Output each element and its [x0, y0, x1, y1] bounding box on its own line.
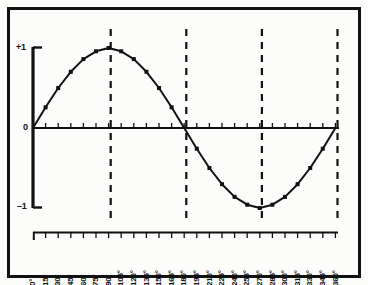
- y-axis-label-positive-one: +1: [16, 42, 26, 52]
- y-axis-label-zero: 0: [23, 122, 28, 132]
- dashed-reference-lines: [111, 29, 338, 223]
- sine-wave-figure: +1 0 –1 0°15°30°45°60°75°90°105°120°135°…: [0, 0, 368, 285]
- y-axis-label-negative-one: –1: [17, 201, 26, 211]
- plot-canvas: [0, 0, 368, 285]
- bottom-ruler-axis: [33, 232, 338, 240]
